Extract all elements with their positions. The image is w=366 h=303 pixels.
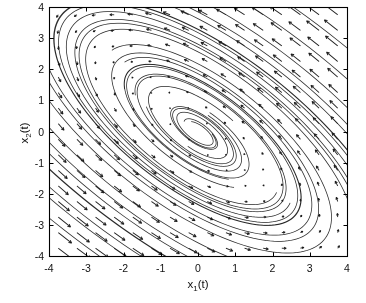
y-tick-label: 2 <box>17 63 44 75</box>
x-tick-label: 4 <box>344 262 350 274</box>
x-tick-label: -3 <box>82 262 91 274</box>
y-axis-label-paren: (t) <box>18 122 30 133</box>
y-axis-label: x2(t) <box>16 97 32 169</box>
y-tick-label: -2 <box>17 188 44 200</box>
x-tick-label: -2 <box>119 262 128 274</box>
y-axis-label-subscript: 2 <box>24 133 33 137</box>
y-tick-label: -3 <box>17 219 44 231</box>
phase-portrait-canvas <box>0 0 366 303</box>
x-tick-label: 0 <box>195 262 201 274</box>
x-tick-label: -1 <box>156 262 165 274</box>
x-tick-label: 3 <box>307 262 313 274</box>
x-axis-label: x1(t) <box>49 278 347 293</box>
y-tick-label: -4 <box>17 250 44 262</box>
x-tick-label: -4 <box>44 262 53 274</box>
y-axis-label-base: x <box>18 138 30 144</box>
x-axis-label-paren: (t) <box>198 278 209 290</box>
y-tick-label: 4 <box>17 1 44 13</box>
y-tick-label: 3 <box>17 32 44 44</box>
x-tick-label: 2 <box>270 262 276 274</box>
phase-portrait-figure: -4-3-2-10123443210-1-2-3-4 x1(t) x2(t) <box>0 0 366 303</box>
x-tick-label: 1 <box>232 262 238 274</box>
